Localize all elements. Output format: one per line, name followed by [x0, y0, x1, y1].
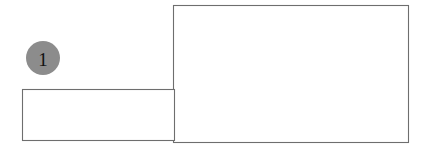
small-rectangle[interactable] — [23, 90, 175, 141]
large-rectangle[interactable] — [174, 6, 409, 143]
diagram-canvas: 1 — [0, 0, 434, 149]
callout-1[interactable]: 1 — [26, 41, 60, 75]
diagram-drawing: 1 — [0, 0, 434, 149]
callout-1-label: 1 — [38, 49, 48, 70]
